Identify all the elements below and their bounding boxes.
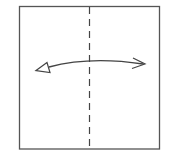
origami-fold-diagram <box>0 0 172 153</box>
